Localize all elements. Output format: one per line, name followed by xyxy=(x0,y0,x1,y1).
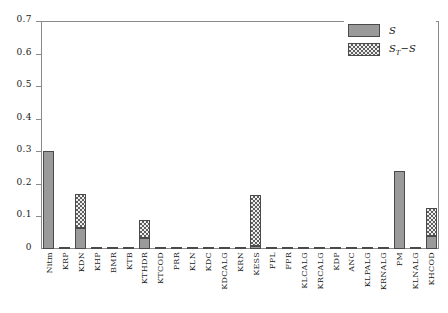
bar-segment-st-minus-s xyxy=(426,208,437,236)
legend-swatch-st-minus-s xyxy=(348,43,380,56)
bar-segment-s xyxy=(123,247,134,249)
x-axis-label: KLCALG xyxy=(300,252,309,289)
bar-group xyxy=(107,247,118,249)
bar-segment-s xyxy=(410,247,421,249)
x-axis-label: KDN xyxy=(77,252,86,272)
x-axis-label: KRP xyxy=(61,252,70,270)
x-axis-label: KHP xyxy=(93,252,102,271)
bar-group xyxy=(171,247,182,249)
x-axis-label: FPR xyxy=(284,252,293,270)
bar-group xyxy=(59,247,70,249)
legend-swatch-s xyxy=(348,24,380,37)
bar-group xyxy=(187,247,198,249)
bar-segment-s xyxy=(362,247,373,249)
x-axis-label: PRR xyxy=(172,252,181,270)
bar-segment-s xyxy=(43,151,54,249)
bar-segment-s xyxy=(91,247,102,249)
y-axis-tick-label: 0.7 xyxy=(16,14,32,24)
legend-item-st-minus-s: ST−S xyxy=(348,41,432,58)
bar-segment-s xyxy=(298,247,309,249)
chart-legend: S ST−S xyxy=(344,19,436,63)
bar-group xyxy=(203,247,214,249)
bar-segment-s xyxy=(75,228,86,249)
bar-segment-s xyxy=(330,247,341,249)
x-axis-label: KTHDR xyxy=(140,252,149,284)
bar-segment-s xyxy=(139,238,150,249)
bar-segment-st-minus-s xyxy=(139,220,150,238)
bar-segment-s xyxy=(250,246,261,249)
bar-group xyxy=(298,247,309,249)
bar-segment-s xyxy=(378,247,389,249)
bar-segment-s xyxy=(187,247,198,249)
bar-group xyxy=(410,247,421,249)
x-axis-label: KLN xyxy=(188,252,197,271)
x-axis-label: FPL xyxy=(268,252,277,269)
y-axis: 00.10.20.30.40.50.60.7 xyxy=(0,0,41,250)
bar-group xyxy=(282,247,293,249)
bar-segment-s xyxy=(155,247,166,249)
x-axis-label: KTB xyxy=(125,252,134,270)
bar-group xyxy=(426,208,437,249)
bar-group xyxy=(266,247,277,249)
bar-segment-s xyxy=(171,247,182,249)
y-axis-tick-label: 0.1 xyxy=(16,209,32,219)
bar-group xyxy=(378,247,389,249)
bar-segment-st-minus-s xyxy=(250,195,261,246)
y-axis-tick-label: 0.6 xyxy=(16,47,32,57)
bar-group xyxy=(75,194,86,249)
x-axis-label: ANC xyxy=(347,252,356,272)
bar-segment-s xyxy=(426,236,437,249)
bar-segment-s xyxy=(107,247,118,249)
bar-segment-s xyxy=(219,247,230,249)
y-axis-tick-label: 0 xyxy=(26,242,32,252)
bar-group xyxy=(346,247,357,249)
bar-group xyxy=(155,247,166,249)
x-axis-label: KRNALG xyxy=(379,252,388,290)
bar-group xyxy=(91,247,102,249)
x-axis-label: KDP xyxy=(332,252,341,271)
bar-group xyxy=(123,247,134,249)
legend-label-st-minus-s: ST−S xyxy=(389,43,416,57)
bar-group xyxy=(139,220,150,249)
bar-group xyxy=(314,247,325,249)
x-axis-label: KTCOD xyxy=(156,252,165,284)
x-axis-label: KHCOD xyxy=(427,252,436,286)
bar-group xyxy=(219,247,230,249)
legend-item-s: S xyxy=(348,22,432,39)
x-axis-labels: NitmKRPKDNKHPBMRKTBKTHDRKTCODPRRKLNKDCKD… xyxy=(41,252,439,313)
y-axis-tick-label: 0.4 xyxy=(16,112,32,122)
bar-segment-s xyxy=(314,247,325,249)
x-axis-label: KESS xyxy=(252,252,261,276)
x-axis-label: PM xyxy=(395,252,404,266)
y-axis-tick-label: 0.2 xyxy=(16,177,32,187)
y-axis-tick-label: 0.5 xyxy=(16,79,32,89)
bar-group xyxy=(235,247,246,249)
bar-group xyxy=(330,247,341,249)
x-axis-label: BMR xyxy=(109,252,118,273)
x-axis-label: KLNALG xyxy=(411,252,420,290)
bar-segment-s xyxy=(346,247,357,249)
bar-segment-s xyxy=(266,247,277,249)
bar-chart-figure: 00.10.20.30.40.50.60.7 NitmKRPKDNKHPBMRK… xyxy=(0,0,448,313)
bar-segment-s xyxy=(282,247,293,249)
bar-segment-s xyxy=(59,247,70,249)
bar-segment-s xyxy=(203,247,214,249)
x-axis-label: KDC xyxy=(204,252,213,271)
x-axis-label: KLPALG xyxy=(363,252,372,287)
x-axis-label: KDCALG xyxy=(220,252,229,290)
bar-group xyxy=(394,171,405,249)
bar-segment-st-minus-s xyxy=(75,194,86,228)
y-axis-tick-label: 0.3 xyxy=(16,144,32,154)
x-axis-label: Nitm xyxy=(45,252,54,274)
bar-segment-s xyxy=(394,171,405,249)
bar-group xyxy=(43,151,54,249)
x-axis-label: KRN xyxy=(236,252,245,272)
legend-label-s: S xyxy=(389,25,396,36)
bar-group xyxy=(250,195,261,249)
bar-segment-s xyxy=(235,247,246,249)
bar-group xyxy=(362,247,373,249)
x-axis-label: KRCALG xyxy=(316,252,325,289)
